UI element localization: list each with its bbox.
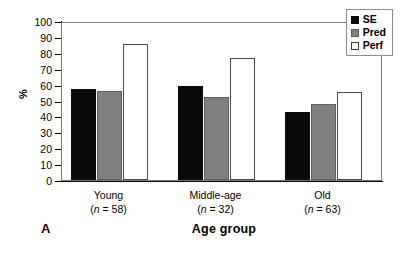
category-name: Middle-age [156,188,276,202]
y-axis-tick-label: 90 [18,33,52,43]
bar-pred-old [311,104,336,180]
bar-se-old [285,112,310,180]
y-axis-tick-label: 40 [18,112,52,122]
plot-area [61,22,382,181]
legend-item-se: SE [351,13,386,26]
bar-perf-young [123,44,148,180]
category-name: Old [263,188,383,202]
bar-pred-young [97,91,122,180]
figure-panel-a: % 0102030405060708090100 Young(n = 58)Mi… [0,0,404,275]
y-axis-tick-label: 70 [18,65,52,75]
category-name: Young [49,188,169,202]
category-sample-size: (n = 58) [49,202,169,216]
legend-label: SE [363,14,377,25]
bar-pred-middle-age [204,97,229,180]
category-label-old: Old(n = 63) [263,188,383,216]
x-axis-line [61,181,383,182]
bar-se-young [71,89,96,180]
bar-perf-old [337,92,362,180]
panel-letter: A [41,221,50,236]
chart-legend: SEPredPerf [346,9,393,56]
y-axis-tick-label: 20 [18,144,52,154]
category-label-young: Young(n = 58) [49,188,169,216]
bars-layer [62,23,381,180]
y-axis-tick-label: 60 [18,81,52,91]
legend-item-perf: Perf [351,39,386,52]
y-axis-tick-label: 0 [18,176,52,186]
category-label-middle-age: Middle-age(n = 32) [156,188,276,216]
x-axis-title: Age group [0,222,404,236]
y-axis-tick-label: 100 [18,17,52,27]
bar-perf-middle-age [230,58,255,180]
legend-swatch-perf-icon [351,42,359,50]
y-axis-tick-label: 30 [18,128,52,138]
legend-swatch-se-icon [351,16,359,24]
y-axis-tick-label: 10 [18,160,52,170]
category-sample-size: (n = 32) [156,202,276,216]
y-axis-tick-label: 50 [18,97,52,107]
bar-se-middle-age [178,86,203,180]
legend-label: Perf [363,40,383,51]
legend-swatch-pred-icon [351,29,359,37]
y-axis-tick-label: 80 [18,49,52,59]
legend-item-pred: Pred [351,26,386,39]
category-sample-size: (n = 63) [263,202,383,216]
legend-label: Pred [363,27,386,38]
